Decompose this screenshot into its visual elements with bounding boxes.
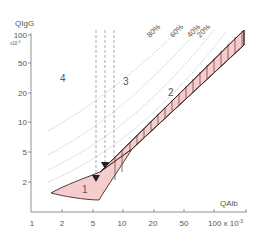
- y-tick-5: 5: [23, 148, 28, 157]
- region-label-1: 1: [82, 184, 88, 195]
- x-tick-1: 1: [30, 219, 35, 228]
- x-axis-title: QAlb: [220, 199, 238, 208]
- y-tick-10: 10: [18, 118, 27, 127]
- curve-20: [48, 32, 226, 182]
- y-tick-50: 50: [18, 59, 27, 68]
- region-label-2: 2: [168, 87, 174, 98]
- region-label-4: 4: [60, 73, 66, 84]
- x-tick-20: 20: [149, 219, 158, 228]
- x-tick-2: 2: [60, 219, 65, 228]
- curve-60: [48, 30, 198, 155]
- boundary-upper: [100, 30, 244, 172]
- dashed-verticals: [96, 30, 114, 175]
- label-80-pct: 80%: [145, 22, 162, 39]
- dotted-curves: [48, 30, 226, 182]
- y-unit: x10-3: [10, 40, 20, 46]
- label-60-pct: 60%: [168, 22, 185, 39]
- y-axis-title: QIgG: [15, 19, 34, 28]
- cropped-caption: [0, 234, 259, 241]
- x-axis: [31, 209, 247, 212]
- x-tick-5: 5: [91, 219, 96, 228]
- reiber-diagram: QIgG 100 x10-3 50 20 10 5 2 QAlb 1 2 5 1…: [0, 0, 259, 241]
- y-tick-2: 2: [23, 178, 28, 187]
- y-axis: [28, 33, 31, 212]
- x-tick-10: 10: [118, 219, 127, 228]
- region-label-3: 3: [123, 76, 129, 87]
- x-tick-50: 50: [180, 219, 189, 228]
- y-tick-20: 20: [18, 89, 27, 98]
- y-tick-100: 100: [14, 31, 28, 40]
- x-tick-100: 100 x 10-3: [208, 218, 243, 228]
